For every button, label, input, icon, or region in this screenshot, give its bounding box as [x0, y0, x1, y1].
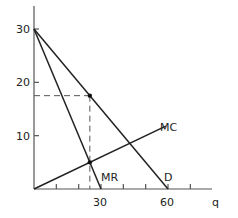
mr-mc-intersection-point — [88, 160, 92, 164]
demand-curve — [34, 29, 168, 189]
mc-label: MC — [160, 121, 177, 134]
y-tick-label-20: 20 — [16, 76, 30, 89]
mr-label: MR — [101, 171, 118, 184]
y-ticks — [34, 29, 39, 136]
d-label: D — [164, 171, 172, 184]
marginal-revenue-curve — [34, 29, 101, 189]
y-tick-label-30: 30 — [16, 23, 30, 36]
monopoly-chart: 30 20 10 30 60 q MC MR D — [0, 0, 238, 218]
x-axis-label: q — [212, 196, 219, 209]
y-tick-label-10: 10 — [16, 130, 30, 143]
marginal-cost-curve — [34, 126, 166, 189]
x-tick-label-60: 60 — [160, 196, 174, 209]
curves — [34, 29, 168, 189]
equilibrium-point — [88, 93, 92, 97]
axes — [34, 6, 212, 189]
x-tick-label-30: 30 — [93, 196, 107, 209]
x-ticks — [56, 184, 190, 189]
